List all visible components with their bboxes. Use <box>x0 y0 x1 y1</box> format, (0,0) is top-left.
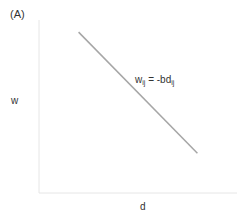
y-axis-label: w <box>10 95 19 106</box>
x-axis-label: d <box>140 201 146 212</box>
line-annotation: wij = -bdij <box>134 74 175 87</box>
chart-title: (A) <box>10 8 25 20</box>
chart: (A) w d wij = -bdij <box>0 0 250 222</box>
series-line <box>79 32 198 153</box>
